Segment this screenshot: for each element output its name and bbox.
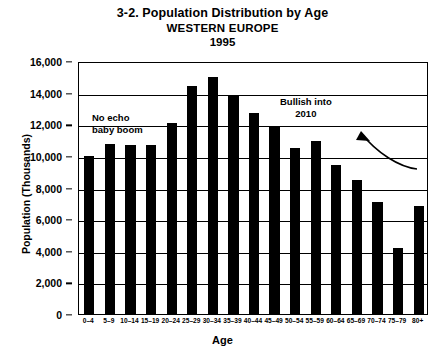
x-axis: 0–45–910–1415–1920–2425–2930–3435–3940–4…: [78, 317, 428, 333]
bar: [125, 145, 135, 314]
x-tick-label: 10–14: [120, 317, 138, 324]
x-tick-label: 25–29: [182, 317, 200, 324]
y-tick-mark: [66, 61, 72, 62]
bar: [105, 144, 115, 314]
bar: [393, 248, 403, 314]
bar: [167, 123, 177, 314]
y-tick-mark: [66, 188, 72, 189]
x-tick-label: 20–24: [161, 317, 179, 324]
bar: [352, 180, 362, 314]
y-axis-title: Population (Thousands): [20, 94, 32, 294]
x-tick-label: 65–69: [347, 317, 365, 324]
bar: [208, 77, 218, 314]
x-tick-label: 5–9: [103, 317, 114, 324]
bar: [372, 202, 382, 314]
y-tick-label: 12,000: [30, 119, 62, 131]
y-tick-label: 6,000: [36, 214, 62, 226]
x-tick-label: 40–44: [244, 317, 262, 324]
y-tick-label: 2,000: [36, 277, 62, 289]
x-tick-label: 15–19: [141, 317, 159, 324]
bar: [187, 86, 197, 314]
annotation-bullish-into-2010: Bullish into 2010: [280, 96, 332, 119]
x-axis-title: Age: [0, 334, 445, 346]
chart-subtitle: WESTERN EUROPE: [0, 21, 445, 35]
y-tick-mark: [66, 219, 72, 220]
x-tick-label: 60–64: [326, 317, 344, 324]
bar: [269, 127, 279, 314]
title-block: 3-2. Population Distribution by Age WEST…: [0, 6, 445, 49]
y-tick-label: 16,000: [30, 56, 62, 68]
y-tick-mark: [66, 283, 72, 284]
bar: [290, 148, 300, 314]
y-tick-mark: [66, 125, 72, 126]
plot-area: [78, 62, 428, 315]
x-tick-label: 50–54: [285, 317, 303, 324]
y-tick-label: 10,000: [30, 151, 62, 163]
bar: [311, 141, 321, 314]
bar: [228, 96, 238, 314]
y-tick-label: 8,000: [36, 183, 62, 195]
x-tick-label: 70–74: [367, 317, 385, 324]
x-tick-label: 75–79: [388, 317, 406, 324]
bar: [249, 113, 259, 314]
x-tick-label: 35–39: [223, 317, 241, 324]
x-tick-label: 45–49: [264, 317, 282, 324]
y-tick-mark: [66, 93, 72, 94]
y-tick-label: 0: [56, 309, 62, 321]
bar: [146, 145, 156, 314]
x-tick-label: 30–34: [203, 317, 221, 324]
gridline: [79, 95, 427, 96]
y-tick-mark: [66, 314, 72, 315]
y-tick-mark: [66, 156, 72, 157]
y-axis: 16,00014,00012,00010,0008,0006,0004,0002…: [0, 62, 72, 315]
page-title: 3-2. Population Distribution by Age: [0, 6, 445, 21]
bar: [84, 156, 94, 314]
chart-year: 1995: [0, 35, 445, 49]
annotation-no-echo-baby-boom: No echo baby boom: [92, 112, 143, 135]
y-tick-label: 4,000: [36, 246, 62, 258]
y-tick-label: 14,000: [30, 88, 62, 100]
y-tick-mark: [66, 251, 72, 252]
x-tick-label: 80+: [412, 317, 423, 324]
x-tick-label: 0–4: [83, 317, 94, 324]
bar: [331, 165, 341, 314]
x-tick-label: 55–59: [306, 317, 324, 324]
bar: [414, 206, 424, 314]
